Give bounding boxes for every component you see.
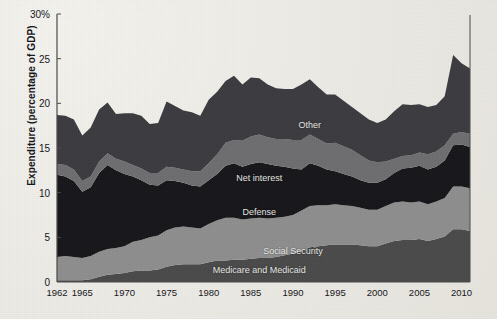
series-label-other: Other (299, 120, 322, 130)
series-label-net-interest: Net interest (236, 173, 282, 183)
x-tick-1995: 1995 (325, 287, 346, 298)
y-tick-10: 10 (39, 187, 50, 198)
y-tick-20: 20 (39, 98, 50, 109)
x-tick-1970: 1970 (114, 287, 135, 298)
y-axis-tick-labels: 051015202530% (0, 0, 50, 319)
x-tick-1985: 1985 (240, 287, 261, 298)
series-label-social-security: Social Security (263, 246, 323, 256)
x-tick-1975: 1975 (156, 287, 177, 298)
y-tick-15: 15 (39, 143, 50, 154)
x-tick-1962: 1962 (46, 287, 67, 298)
x-tick-1965: 1965 (72, 287, 93, 298)
x-tick-2005: 2005 (409, 287, 430, 298)
stacked-area-chart: Expenditure (percentage of GDP) 05101520… (0, 0, 497, 319)
y-tick-0: 0 (44, 277, 50, 288)
x-tick-2010: 2010 (451, 287, 472, 298)
series-label-medicare-and-medicaid: Medicare and Medicaid (213, 265, 306, 275)
series-label-defense: Defense (243, 207, 277, 217)
x-tick-1990: 1990 (282, 287, 303, 298)
x-tick-2000: 2000 (367, 287, 388, 298)
y-tick-25: 25 (39, 53, 50, 64)
y-tick-5: 5 (44, 232, 50, 243)
y-tick-30%: 30% (30, 9, 50, 20)
x-tick-1980: 1980 (198, 287, 219, 298)
